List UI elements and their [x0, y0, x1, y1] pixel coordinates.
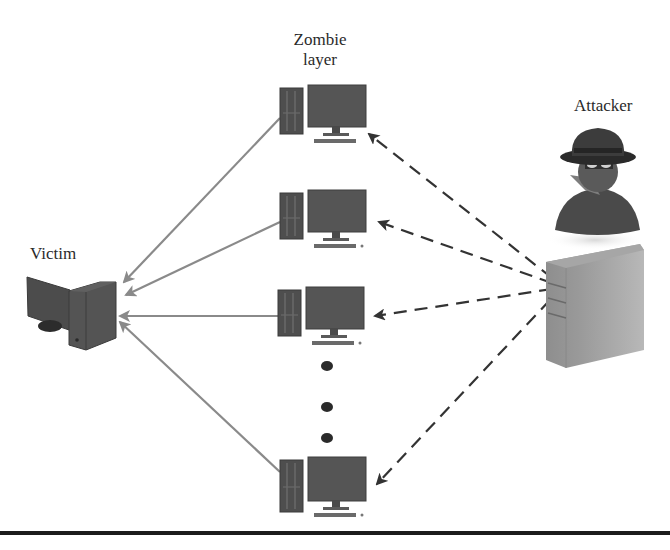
attacker-label: Attacker — [574, 96, 633, 116]
attacker — [546, 128, 644, 368]
desktop-computer-icon — [280, 85, 366, 143]
arrow-attacker-to-zombie-3 — [375, 289, 552, 316]
zombie-layer-label-line1: Zombie — [270, 30, 370, 50]
zombie-computer-n — [280, 457, 366, 517]
zombie-layer-label-line2: layer — [270, 50, 370, 70]
arrow-attacker-to-zombie-1 — [369, 134, 552, 278]
zombie-computer-3 — [278, 287, 364, 345]
server-icon — [546, 244, 644, 368]
arrow-zombie-1-to-victim — [124, 118, 280, 282]
computer-icon — [27, 277, 116, 350]
spy-icon — [555, 128, 640, 235]
zombie-layer-label: Zombie layer — [270, 30, 370, 70]
attacker-to-zombie-arrows — [369, 134, 552, 484]
desktop-computer-icon — [280, 457, 366, 517]
zombie-computer-1 — [280, 85, 366, 143]
desktop-computer-icon — [278, 287, 364, 345]
ellipsis-dots — [321, 361, 333, 443]
bottom-rule-divider — [0, 531, 670, 535]
desktop-computer-icon — [280, 190, 366, 248]
ddos-diagram — [0, 0, 670, 550]
zombie-computer-2 — [280, 190, 366, 248]
arrow-zombie-2-to-victim — [126, 222, 280, 295]
zombie-to-victim-arrows — [120, 118, 280, 472]
arrow-attacker-to-zombie-2 — [379, 222, 552, 283]
arrow-zombie-n-to-victim — [120, 322, 280, 472]
arrow-attacker-to-zombie-n — [377, 300, 550, 484]
victim-computer — [27, 277, 116, 350]
victim-label: Victim — [30, 244, 76, 264]
